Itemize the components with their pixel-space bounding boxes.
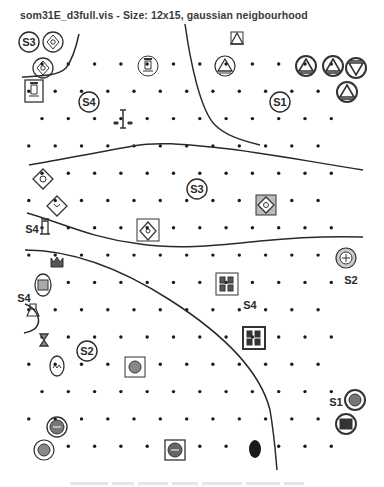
neuron-dot [211,90,214,93]
neuron-dot [198,172,201,175]
neuron-dot [93,335,96,338]
neuron-dot [316,199,319,202]
neuron-dot [251,172,254,175]
grid-box-dark-icon [243,327,265,349]
neuron-dot [132,308,135,311]
cluster-boundaries [22,24,363,470]
seal-circle-icon [336,248,356,268]
neuron-dot [277,445,280,448]
neuron-dot [264,90,267,93]
neuron-dot [277,62,280,65]
cluster-label-s1-top: S1 [270,92,290,112]
tower-small-icon [40,219,50,234]
neuron-dot [238,199,241,202]
neuron-dot [251,281,254,284]
neuron-dot [27,363,30,366]
neuron-dot [106,417,109,420]
neuron-dot [80,253,83,256]
neuron-dot [172,62,175,65]
neuron-dot [316,308,319,311]
neuron-dot [330,226,333,229]
neuron-dot [132,253,135,256]
seal-circle-icon [34,440,54,460]
neuron-dot [132,90,135,93]
cluster-labels: S3 S4 S1 S3 S4 S2 S4 S4 S2 S1 [17,32,357,408]
neuron-dot [146,172,149,175]
neuron-dot [54,308,57,311]
seal-oval-icon [35,274,51,296]
neuron-dot [146,390,149,393]
neuron-dot [80,308,83,311]
cluster-label-s2-right: S2 [344,274,357,286]
neuron-dot [330,117,333,120]
seal-box-dark-icon [165,440,185,460]
cluster-label-s4-edge: S4 [17,292,31,304]
neuron-dot [316,363,319,366]
neuron-dot [80,90,83,93]
seal-box-icon [125,357,145,377]
svg-text:S2: S2 [80,345,93,357]
neuron-dot [251,117,254,120]
neuron-dot [146,335,149,338]
neuron-dot [238,253,241,256]
neuron-dot [198,445,201,448]
boundary-s4-s1-vertical [185,24,260,145]
neuron-dot [27,144,30,147]
neuron-dot [290,90,293,93]
neuron-dot [93,390,96,393]
neuron-dot [211,417,214,420]
neuron-dot [303,445,306,448]
neuron-dot [277,226,280,229]
neuron-dot [211,253,214,256]
neuron-dot [172,226,175,229]
neuron-dot [224,445,227,448]
neuron-dot [211,363,214,366]
boundary-s4-s3-upper [29,144,363,170]
neuron-dot [330,390,333,393]
neuron-dot [198,117,201,120]
neuron-dot [172,281,175,284]
neuron-dot [119,62,122,65]
neuron-dot [80,417,83,420]
neuron-dot [211,308,214,311]
neuron-dot [106,144,109,147]
neuron-dot [330,445,333,448]
neuron-dot [290,144,293,147]
neuron-dot [185,90,188,93]
tower-circle-icon [138,56,158,76]
crown-icon [51,257,63,267]
neuron-dot [159,253,162,256]
neuron-dot [27,417,30,420]
neuron-dot [303,335,306,338]
seal-circle-dark-icon [47,417,67,437]
neuron-dot [330,172,333,175]
neuron-dot [27,90,30,93]
diamond-box-dark-icon [256,195,276,215]
neuron-dot [40,390,43,393]
neuron-dot [238,308,241,311]
neuron-dot [264,417,267,420]
neuron-dot [119,445,122,448]
neuron-dot [303,117,306,120]
neuron-dot [198,335,201,338]
neuron-dot [330,281,333,284]
neuron-dot [224,390,227,393]
neuron-dot [238,90,241,93]
neuron-dot [290,308,293,311]
neuron-dot [67,172,70,175]
neuron-dot [185,417,188,420]
neuron-dot [146,62,149,65]
boundary-s3-s4-lower [27,213,363,247]
neuron-dot [54,253,57,256]
svg-text:S3: S3 [22,36,35,48]
neuron-dot [146,117,149,120]
neuron-dot [290,253,293,256]
tower-cross-icon [114,110,132,128]
diamond-circle-icon [43,32,63,52]
neuron-dot [159,144,162,147]
neuron-dot [251,390,254,393]
svg-text:S4: S4 [17,292,31,304]
neuron-dot [198,62,201,65]
neuron-dot [27,199,30,202]
neuron-dot [132,417,135,420]
